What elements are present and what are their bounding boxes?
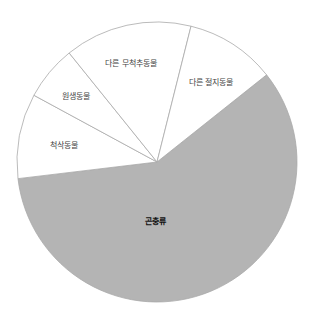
slice-label: 다른 무척추동물 xyxy=(105,59,157,68)
slice-label: 척삭동물 xyxy=(50,140,78,150)
pie-slices xyxy=(17,22,297,302)
slice-label: 다른 절지동물 xyxy=(189,78,234,87)
slice-label: 원생동물 xyxy=(62,91,90,101)
pie-chart: 곤충류척삭동물원생동물다른 무척추동물다른 절지동물 xyxy=(0,0,310,321)
slice-label: 곤충류 xyxy=(145,216,167,226)
